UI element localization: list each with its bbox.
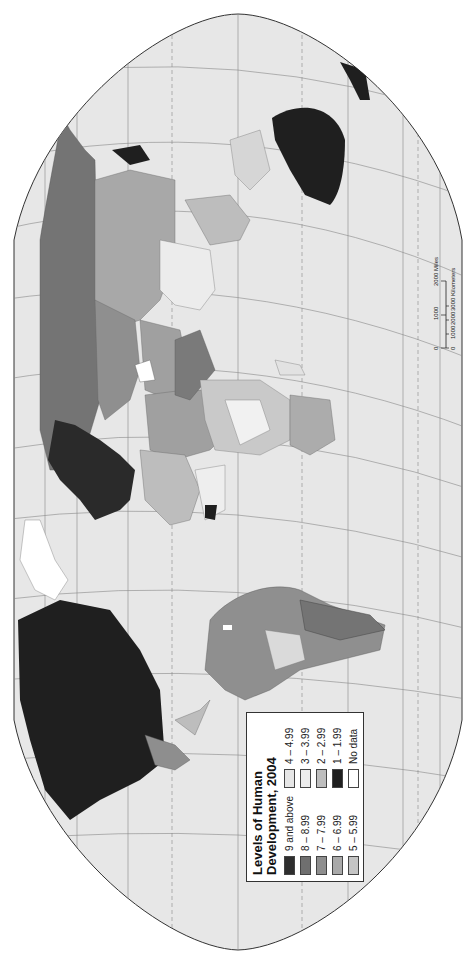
scale-miles-2000: 2000 Miles <box>433 257 439 286</box>
legend-swatch <box>300 856 311 875</box>
legend-label: 7 – 7.99 <box>316 815 327 851</box>
legend-swatch <box>316 856 327 875</box>
legend-column-2: 4 – 4.99 3 – 3.99 2 – 2.99 1 – 1.99 No d… <box>283 728 360 788</box>
scale-km-3000: 3000 Kilometers <box>450 268 456 311</box>
scale-km-1000: 1000 <box>450 325 456 339</box>
legend-swatch <box>348 769 359 788</box>
legend-label: 5 – 5.99 <box>348 815 359 851</box>
legend-item: 3 – 3.99 <box>299 728 312 788</box>
legend-item: No data <box>347 728 360 788</box>
legend-swatch <box>284 769 295 788</box>
legend-label: 8 – 8.99 <box>300 815 311 851</box>
legend-item: 5 – 5.99 <box>347 796 360 875</box>
legend-item: 6 – 6.99 <box>331 796 344 875</box>
legend-item: 8 – 8.99 <box>299 796 312 875</box>
legend-label: No data <box>348 729 359 764</box>
legend-swatch <box>284 856 295 875</box>
legend-swatch <box>300 769 311 788</box>
legend-item: 1 – 1.99 <box>331 728 344 788</box>
legend-label: 2 – 2.99 <box>316 728 327 764</box>
legend: Levels of Human Development, 2004 9 and … <box>246 712 364 882</box>
legend-item: 2 – 2.99 <box>315 728 328 788</box>
region-lesotho <box>205 505 217 520</box>
legend-label: 3 – 3.99 <box>300 728 311 764</box>
legend-label: 4 – 4.99 <box>284 728 295 764</box>
legend-column-1: 9 and above 8 – 8.99 7 – 7.99 6 – 6.99 5… <box>283 796 360 875</box>
legend-label: 9 and above <box>284 796 295 851</box>
legend-swatch <box>348 856 359 875</box>
legend-title-line1: Levels of Human <box>251 719 265 875</box>
legend-swatch <box>316 769 327 788</box>
legend-swatch <box>332 856 343 875</box>
scale-miles-1000: 1000 <box>433 306 439 320</box>
legend-item: 4 – 4.99 <box>283 728 296 788</box>
legend-label: 6 – 6.99 <box>332 815 343 851</box>
world-map: 0 1000 2000 Miles 0 1000 2000 3000 Kilom… <box>0 0 473 964</box>
legend-title-line2: Development, 2004 <box>265 719 279 875</box>
scale-km-2000: 2000 <box>450 311 456 325</box>
legend-item: 7 – 7.99 <box>315 796 328 875</box>
region-no-data-sa <box>223 625 232 630</box>
legend-swatch <box>332 769 343 788</box>
legend-item: 9 and above <box>283 796 296 875</box>
legend-title: Levels of Human Development, 2004 <box>251 719 279 875</box>
legend-label: 1 – 1.99 <box>332 728 343 764</box>
